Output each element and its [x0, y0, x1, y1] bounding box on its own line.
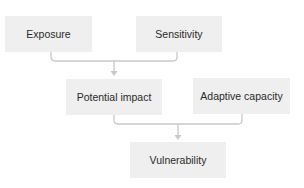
node-label: Adaptive capacity	[200, 90, 282, 102]
node-adaptive-capacity: Adaptive capacity	[193, 78, 290, 114]
diagram-canvas: Exposure Sensitivity Potential impact Ad…	[0, 0, 304, 188]
node-exposure: Exposure	[5, 16, 92, 52]
node-potential-impact: Potential impact	[66, 79, 162, 115]
node-label: Sensitivity	[155, 28, 202, 40]
node-vulnerability: Vulnerability	[130, 142, 226, 178]
arrowhead-icon	[111, 71, 118, 76]
node-label: Exposure	[26, 28, 70, 40]
connector-top-merge	[51, 52, 177, 74]
node-label: Vulnerability	[150, 154, 207, 166]
arrowhead-icon	[175, 135, 182, 140]
node-sensitivity: Sensitivity	[136, 16, 222, 52]
node-label: Potential impact	[77, 91, 152, 103]
connector-bottom-merge	[114, 114, 242, 138]
